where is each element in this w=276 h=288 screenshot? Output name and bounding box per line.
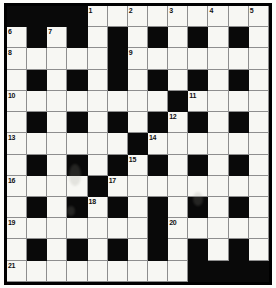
grid-letter-cell[interactable]: 15 — [128, 155, 148, 176]
grid-letter-cell[interactable] — [128, 27, 148, 48]
grid-letter-cell[interactable]: 6 — [7, 27, 27, 48]
grid-letter-cell[interactable] — [27, 218, 47, 239]
grid-letter-cell[interactable] — [27, 261, 47, 282]
grid-letter-cell[interactable] — [88, 155, 108, 176]
grid-letter-cell[interactable]: 16 — [7, 176, 27, 197]
grid-letter-cell[interactable] — [148, 261, 168, 282]
grid-letter-cell[interactable] — [128, 112, 148, 133]
grid-letter-cell[interactable] — [229, 91, 249, 112]
grid-letter-cell[interactable] — [188, 176, 208, 197]
grid-letter-cell[interactable]: 21 — [7, 261, 27, 282]
grid-letter-cell[interactable] — [148, 176, 168, 197]
grid-letter-cell[interactable] — [168, 133, 188, 154]
grid-letter-cell[interactable] — [208, 91, 228, 112]
grid-letter-cell[interactable]: 10 — [7, 91, 27, 112]
crossword-grid[interactable]: 123456789101112131415161718192021 — [7, 6, 269, 282]
grid-letter-cell[interactable] — [229, 6, 249, 27]
grid-letter-cell[interactable] — [67, 91, 87, 112]
grid-letter-cell[interactable] — [229, 218, 249, 239]
grid-letter-cell[interactable] — [88, 112, 108, 133]
grid-letter-cell[interactable]: 12 — [168, 112, 188, 133]
grid-letter-cell[interactable] — [128, 176, 148, 197]
grid-letter-cell[interactable] — [88, 261, 108, 282]
grid-letter-cell[interactable] — [67, 261, 87, 282]
grid-letter-cell[interactable] — [208, 197, 228, 218]
grid-letter-cell[interactable]: 19 — [7, 218, 27, 239]
grid-letter-cell[interactable] — [7, 70, 27, 91]
grid-letter-cell[interactable]: 11 — [188, 91, 208, 112]
grid-letter-cell[interactable] — [249, 197, 269, 218]
grid-letter-cell[interactable] — [249, 48, 269, 69]
grid-letter-cell[interactable] — [168, 70, 188, 91]
grid-letter-cell[interactable] — [47, 70, 67, 91]
grid-letter-cell[interactable] — [208, 48, 228, 69]
grid-letter-cell[interactable] — [148, 91, 168, 112]
grid-letter-cell[interactable]: 7 — [47, 27, 67, 48]
grid-letter-cell[interactable]: 8 — [7, 48, 27, 69]
grid-letter-cell[interactable]: 13 — [7, 133, 27, 154]
grid-letter-cell[interactable] — [67, 176, 87, 197]
grid-letter-cell[interactable] — [229, 133, 249, 154]
grid-letter-cell[interactable] — [249, 218, 269, 239]
grid-letter-cell[interactable] — [47, 197, 67, 218]
grid-letter-cell[interactable] — [229, 176, 249, 197]
grid-letter-cell[interactable] — [168, 48, 188, 69]
grid-letter-cell[interactable] — [168, 197, 188, 218]
grid-letter-cell[interactable] — [249, 91, 269, 112]
grid-letter-cell[interactable] — [7, 239, 27, 260]
grid-letter-cell[interactable] — [168, 155, 188, 176]
grid-letter-cell[interactable]: 17 — [108, 176, 128, 197]
grid-letter-cell[interactable]: 1 — [88, 6, 108, 27]
grid-letter-cell[interactable] — [128, 91, 148, 112]
grid-letter-cell[interactable] — [67, 218, 87, 239]
grid-letter-cell[interactable] — [168, 176, 188, 197]
grid-letter-cell[interactable] — [148, 48, 168, 69]
grid-letter-cell[interactable] — [88, 48, 108, 69]
grid-letter-cell[interactable] — [128, 239, 148, 260]
grid-letter-cell[interactable] — [27, 48, 47, 69]
grid-letter-cell[interactable] — [108, 218, 128, 239]
grid-letter-cell[interactable] — [108, 91, 128, 112]
grid-letter-cell[interactable] — [188, 133, 208, 154]
grid-letter-cell[interactable] — [148, 6, 168, 27]
grid-letter-cell[interactable] — [208, 133, 228, 154]
grid-letter-cell[interactable] — [88, 91, 108, 112]
grid-letter-cell[interactable] — [208, 155, 228, 176]
grid-letter-cell[interactable] — [7, 197, 27, 218]
grid-letter-cell[interactable] — [188, 48, 208, 69]
grid-letter-cell[interactable]: 9 — [128, 48, 148, 69]
grid-letter-cell[interactable] — [188, 218, 208, 239]
grid-letter-cell[interactable] — [208, 218, 228, 239]
grid-letter-cell[interactable] — [47, 112, 67, 133]
grid-letter-cell[interactable] — [47, 218, 67, 239]
grid-letter-cell[interactable] — [47, 155, 67, 176]
grid-letter-cell[interactable] — [7, 155, 27, 176]
grid-letter-cell[interactable] — [108, 6, 128, 27]
grid-letter-cell[interactable] — [47, 48, 67, 69]
grid-letter-cell[interactable] — [208, 239, 228, 260]
grid-letter-cell[interactable] — [249, 133, 269, 154]
grid-letter-cell[interactable] — [47, 239, 67, 260]
grid-letter-cell[interactable]: 3 — [168, 6, 188, 27]
grid-letter-cell[interactable] — [229, 48, 249, 69]
grid-letter-cell[interactable] — [249, 239, 269, 260]
grid-letter-cell[interactable] — [88, 218, 108, 239]
grid-letter-cell[interactable] — [47, 261, 67, 282]
grid-letter-cell[interactable] — [208, 112, 228, 133]
grid-letter-cell[interactable] — [108, 261, 128, 282]
grid-letter-cell[interactable] — [208, 70, 228, 91]
grid-letter-cell[interactable] — [88, 133, 108, 154]
grid-letter-cell[interactable] — [47, 176, 67, 197]
grid-letter-cell[interactable] — [27, 91, 47, 112]
grid-letter-cell[interactable]: 18 — [88, 197, 108, 218]
grid-letter-cell[interactable] — [47, 133, 67, 154]
grid-letter-cell[interactable]: 2 — [128, 6, 148, 27]
grid-letter-cell[interactable] — [128, 70, 148, 91]
grid-letter-cell[interactable] — [208, 176, 228, 197]
grid-letter-cell[interactable] — [27, 133, 47, 154]
grid-letter-cell[interactable] — [249, 27, 269, 48]
grid-letter-cell[interactable]: 20 — [168, 218, 188, 239]
grid-letter-cell[interactable] — [67, 133, 87, 154]
grid-letter-cell[interactable] — [249, 155, 269, 176]
grid-letter-cell[interactable] — [128, 218, 148, 239]
